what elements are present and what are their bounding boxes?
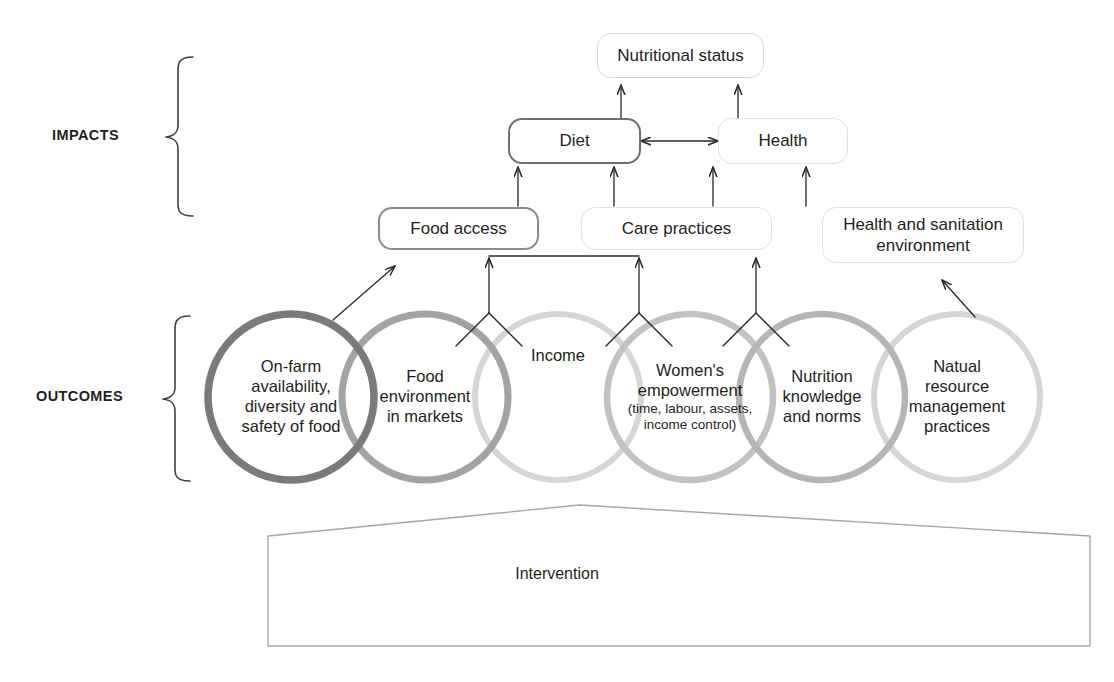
node-nutritional-status-label: Nutritional status [617,45,744,66]
intervention-label: Intervention [0,565,1114,583]
node-diet[interactable]: Diet [508,118,641,164]
node-health-sanitation-label: Health and sanitation environment [823,214,1023,257]
circle-food-environment-line-3: in markets [380,407,471,427]
circle-food-environment-line-1: Food [380,367,471,387]
circle-on-farm-line-1: On-farm [241,357,340,377]
circle-natural-resource-line-3: management [909,397,1005,417]
circle-womens-empowerment-line-2: empowerment [628,381,753,401]
circle-womens-empowerment[interactable]: Women's empowerment (time, labour, asset… [607,314,773,480]
circle-natural-resource-line-1: Natual [909,357,1005,377]
node-diet-label: Diet [559,130,589,151]
circle-womens-empowerment-text: Women's empowerment (time, labour, asset… [618,361,763,433]
node-health[interactable]: Health [718,118,848,164]
node-care-practices-label: Care practices [622,218,732,239]
circle-income-line-1: Income [531,346,585,366]
circle-nutrition-knowledge-line-2: knowledge [783,387,862,407]
brace-outcomes [163,316,190,481]
circle-natural-resource-line-4: practices [909,417,1005,437]
circle-on-farm-line-4: safety of food [241,417,340,437]
node-health-sanitation[interactable]: Health and sanitation environment [822,207,1024,263]
node-food-access-label: Food access [410,218,506,239]
node-food-access[interactable]: Food access [378,207,539,250]
circle-natural-resource[interactable]: Natual resource management practices [874,314,1040,480]
circle-food-environment-line-2: environment [380,387,471,407]
circle-nutrition-knowledge-text: Nutrition knowledge and norms [773,367,872,426]
circle-natural-resource-text: Natual resource management practices [899,357,1015,436]
circle-income-text: Income [521,346,595,366]
circle-on-farm-text: On-farm availability, diversity and safe… [231,357,350,436]
node-nutritional-status[interactable]: Nutritional status [597,33,764,78]
diagram-canvas: IMPACTS OUTCOMES Nutritional status Diet… [0,0,1114,682]
circle-womens-empowerment-sub-2: income control) [628,417,753,433]
tier-label-impacts: IMPACTS [52,127,119,143]
circle-nutrition-knowledge-line-3: and norms [783,407,862,427]
circle-on-farm-line-2: availability, [241,377,340,397]
circle-natural-resource-line-2: resource [909,377,1005,397]
circle-nutrition-knowledge-line-1: Nutrition [783,367,862,387]
arrows-intermediate-to-impacts [518,167,806,206]
node-health-label: Health [758,130,807,151]
brace-impacts [166,57,193,216]
node-care-practices[interactable]: Care practices [581,207,772,250]
circle-womens-empowerment-line-1: Women's [628,361,753,381]
circle-food-environment-text: Food environment in markets [370,367,481,426]
circle-on-farm-line-3: diversity and [241,397,340,417]
tier-label-outcomes: OUTCOMES [36,388,123,404]
circle-on-farm[interactable]: On-farm availability, diversity and safe… [208,314,374,480]
circle-womens-empowerment-sub-1: (time, labour, assets, [628,401,753,417]
arrow-on-farm-to-food-access [333,266,395,320]
